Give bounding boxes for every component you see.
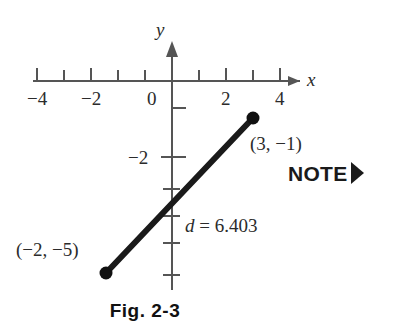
right-triangle-icon bbox=[351, 162, 364, 184]
distance-equals: = bbox=[199, 215, 210, 236]
point-label-3-neg1: (3, −1) bbox=[250, 134, 302, 153]
distance-annotation: d = 6.403 bbox=[185, 216, 257, 235]
point-label-neg2-neg5: (−2, −5) bbox=[16, 240, 79, 259]
point-marker-3-neg1 bbox=[247, 112, 260, 125]
x-tick-label-neg2: −2 bbox=[81, 89, 101, 108]
x-tick-label-0: 0 bbox=[147, 89, 157, 108]
x-axis-label: x bbox=[307, 70, 315, 89]
y-axis-label: y bbox=[156, 20, 164, 39]
y-tick-label-neg2: −2 bbox=[128, 148, 148, 167]
x-axis-arrow-icon bbox=[288, 76, 300, 86]
distance-value: 6.403 bbox=[215, 215, 258, 236]
x-tick-label-neg4: −4 bbox=[27, 89, 47, 108]
x-tick-label-2: 2 bbox=[221, 89, 231, 108]
x-tick-label-4: 4 bbox=[275, 89, 285, 108]
distance-segment bbox=[106, 118, 253, 273]
figure-2-3: y x −4 −2 0 2 4 −2 (3, −1) (−2, −5) d = … bbox=[0, 0, 398, 333]
y-axis-arrow-icon bbox=[166, 41, 178, 57]
figure-caption: Fig. 2-3 bbox=[0, 300, 290, 322]
x-axis-ticks bbox=[37, 68, 280, 81]
distance-variable: d bbox=[185, 215, 195, 236]
note-label: NOTE bbox=[288, 163, 348, 184]
note-badge: NOTE bbox=[288, 162, 364, 184]
point-marker-neg2-neg5 bbox=[100, 267, 113, 280]
